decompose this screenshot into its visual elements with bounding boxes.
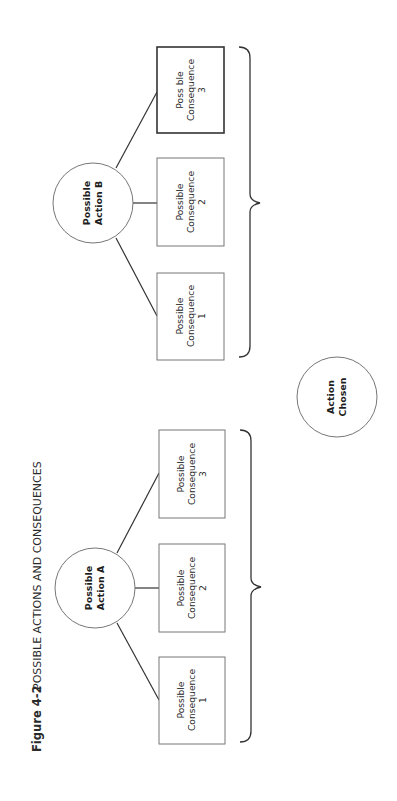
consequence-label: Poss ble [174,71,185,109]
svg-text:Chosen: Chosen [337,377,348,416]
consequence-a-1: Possible Consequence 1 [159,657,225,744]
consequence-label: Consequence [186,669,197,731]
decision-diagram: Figure 4-2 POSSIBLE ACTIONS AND CONSEQUE… [0,0,397,801]
consequence-a-3: Possible Consequence 3 [159,430,225,518]
brace-a [240,430,261,742]
action-b-label: Possible Action B [81,181,104,226]
consequence-label: Consequence [185,285,196,347]
consequence-b-2: Possible Consequence 2 [157,158,224,246]
brace-b [239,47,260,357]
consequence-a-2: Possible Consequence 2 [159,544,225,632]
svg-text:Action B: Action B [93,181,104,226]
connector-a-1 [117,623,159,700]
connector-b-1 [116,238,157,316]
svg-text:Action A: Action A [95,565,106,610]
consequence-label: Possible [175,681,186,718]
consequence-b-1: Possible Consequence 1 [157,273,224,360]
svg-text:Possible: Possible [83,566,94,611]
consequence-number: 3 [197,471,208,477]
consequence-label: Consequence [185,171,196,233]
consequence-label: Possible [174,297,185,334]
consequence-label: Possible [175,455,186,492]
figure-title: POSSIBLE ACTIONS AND CONSEQUENCES [31,461,44,690]
action-a-label: Possible Action A [83,565,106,610]
connector-b-3 [116,92,157,168]
action-chosen-label: Action Chosen [325,377,348,416]
consequence-b-3: Poss ble Consequence 3 [157,47,224,133]
consequence-number: 1 [196,313,207,319]
figure-number: Figure 4-2 [30,686,44,752]
svg-text:Possible: Possible [81,181,92,226]
consequence-label: Possible [174,183,185,220]
group-action-b: Possible Action B Poss ble Consequence 3… [53,47,260,360]
figure-caption: Figure 4-2 POSSIBLE ACTIONS AND CONSEQUE… [30,461,44,752]
group-action-a: Possible Action A Possible Consequence 3… [55,430,261,744]
consequence-number: 1 [197,697,208,703]
consequence-label: Possible [175,569,186,606]
consequence-number: 3 [196,87,207,93]
consequence-label: Consequence [185,59,196,121]
consequence-number: 2 [197,585,208,591]
consequence-number: 2 [196,199,207,205]
svg-text:Action: Action [325,380,336,414]
consequence-label: Consequence [186,557,197,619]
consequence-label: Consequence [186,443,197,505]
connector-a-3 [117,473,159,553]
